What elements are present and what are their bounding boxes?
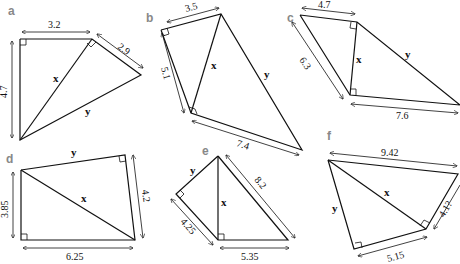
length-label: 8.2 [252,174,268,191]
length-label: 4.25 [179,216,199,236]
unknown-y: y [264,68,270,80]
right-angle-icon [180,190,184,198]
figure-label-a: a [8,4,15,18]
unknown-y: y [405,48,411,60]
length-label: 4.7 [318,0,331,10]
right-angle-icon [218,234,224,240]
unknown-x: x [81,192,87,204]
right-angle-icon [21,234,27,240]
unknown-y: y [85,105,91,117]
length-label: 7.6 [396,110,409,121]
unknown-x: x [221,196,227,208]
length-label: 9.42 [381,147,399,158]
length-label: 3.5 [184,0,199,14]
dimension-arrow [226,155,295,238]
unknown-x: x [384,186,390,198]
figure-f: f 9.42 4.1? 5.15 x y [327,129,460,264]
length-label: 3.85 [0,201,10,219]
unknown-y: y [71,146,77,158]
length-label: 6.25 [66,251,84,262]
triangle-outline [161,14,302,150]
diagonal-x [328,160,426,229]
length-label: 4.7 [0,86,9,99]
length-label: 5.15 [386,249,406,264]
length-label: 2.9 [116,41,133,57]
length-label: 7.4 [235,137,250,151]
figure-a: a 3.2 2.9 4.7 x y [0,4,143,140]
figure-label-e: e [202,144,209,158]
right-angle-icon [87,42,96,47]
right-angle-icon [20,39,26,45]
unknown-x: x [53,72,59,84]
unknown-y: y [190,164,196,176]
length-label: 5.35 [241,251,259,262]
triangle-outline [300,15,460,105]
figure-label-b: b [146,11,153,25]
right-triangle-diagrams: a 3.2 2.9 4.7 x y b 3.5 5.1 7.4 x y c [0,0,460,264]
unknown-y: y [332,202,338,214]
diagonal-x [21,170,135,240]
unknown-x: x [356,53,362,65]
figure-c: c 4.7 6.3 7.6 x y [287,0,460,121]
diagonal-x [191,14,221,113]
length-label: 4.1? [436,198,454,219]
length-label: 4.2 [140,189,152,203]
right-angle-icon [350,22,356,29]
unknown-x: x [211,59,217,71]
length-label: 3.2 [48,19,61,30]
triangle-outline [21,155,135,240]
figure-e: e 8.2 4.25 5.35 x y [171,144,295,262]
figure-d: d 3.85 4.2 6.25 x y [0,146,152,262]
length-label: 5.1 [159,66,173,81]
length-label: 6.3 [297,55,313,72]
figure-label-f: f [327,129,332,143]
figure-b: b 3.5 5.1 7.4 x y [146,0,302,155]
diagonal-x [20,39,92,140]
figure-label-d: d [6,152,13,166]
